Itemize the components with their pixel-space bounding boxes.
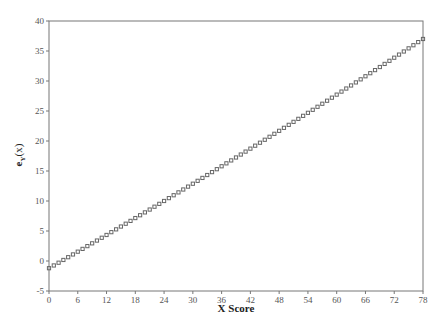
svg-text:12: 12 (102, 295, 111, 305)
svg-text:eY(x): eY(x) (12, 143, 27, 166)
data-points (47, 37, 424, 269)
y-axis-ticks: -50510152025303540 (35, 16, 49, 296)
svg-text:5: 5 (40, 226, 45, 236)
svg-text:20: 20 (35, 136, 45, 146)
svg-text:0: 0 (40, 256, 45, 266)
chart: 06121824303642485460667278 -505101520253… (0, 0, 448, 327)
svg-text:18: 18 (131, 295, 141, 305)
x-axis-title: X Score (218, 302, 255, 314)
svg-text:30: 30 (188, 295, 198, 305)
svg-text:72: 72 (390, 295, 399, 305)
svg-text:24: 24 (160, 295, 170, 305)
svg-text:6: 6 (76, 295, 81, 305)
svg-text:10: 10 (35, 196, 45, 206)
y-axis-title: eY(x) (12, 143, 27, 166)
svg-text:0: 0 (47, 295, 52, 305)
svg-text:30: 30 (35, 76, 45, 86)
svg-text:66: 66 (361, 295, 371, 305)
svg-text:35: 35 (35, 46, 45, 56)
svg-text:40: 40 (35, 16, 45, 26)
svg-text:-5: -5 (37, 286, 45, 296)
svg-text:60: 60 (332, 295, 342, 305)
svg-text:48: 48 (275, 295, 285, 305)
svg-text:25: 25 (35, 106, 45, 116)
svg-text:54: 54 (303, 295, 313, 305)
svg-text:78: 78 (419, 295, 429, 305)
svg-text:15: 15 (35, 166, 45, 176)
